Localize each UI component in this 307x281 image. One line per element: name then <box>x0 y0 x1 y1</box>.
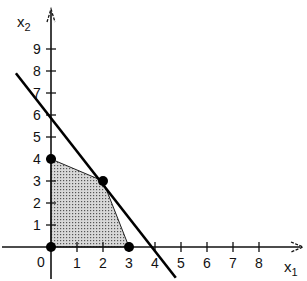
vertex-point <box>46 154 56 164</box>
x-tick-label: 6 <box>203 256 211 270</box>
y-tick-label: 7 <box>33 86 41 100</box>
y-tick-label: 2 <box>33 196 41 210</box>
y-axis-title: x2 <box>17 14 31 33</box>
x-axis-title: x1 <box>284 259 298 278</box>
y-tick-label: 6 <box>33 108 41 122</box>
chart-plot-area <box>0 0 307 281</box>
y-axis-title-sub: 2 <box>25 21 31 33</box>
x-tick-label: 1 <box>73 256 81 270</box>
x-tick-label: 7 <box>229 256 237 270</box>
origin-label: 0 <box>37 255 45 269</box>
y-tick-label: 4 <box>33 152 41 166</box>
x-tick-label: 3 <box>125 256 133 270</box>
x-tick-label: 5 <box>177 256 185 270</box>
y-tick-label: 1 <box>33 218 41 232</box>
vertex-point <box>46 242 56 252</box>
y-tick-label: 8 <box>33 64 41 78</box>
y-tick-label: 9 <box>33 42 41 56</box>
x-tick-label: 8 <box>255 256 263 270</box>
vertex-point <box>124 242 134 252</box>
vertex-point <box>98 176 108 186</box>
x-tick-label: 4 <box>151 256 159 270</box>
x-axis-title-text: x <box>284 258 292 275</box>
axes <box>2 9 303 279</box>
x-tick-label: 2 <box>99 256 107 270</box>
y-tick-label: 3 <box>33 174 41 188</box>
y-tick-label: 5 <box>33 130 41 144</box>
x-axis-title-sub: 1 <box>292 266 298 278</box>
y-axis-title-text: x <box>17 13 25 30</box>
